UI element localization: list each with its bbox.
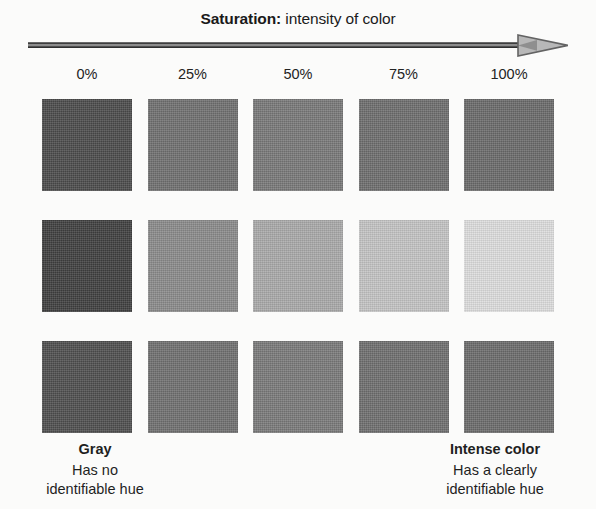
swatch-r2-c1 — [42, 220, 132, 312]
caption-gray-line2: identifiable hue — [0, 480, 190, 500]
swatch-r1-c1 — [42, 99, 132, 191]
tick-label-75: 75% — [359, 64, 449, 86]
swatch-r3-c3 — [253, 341, 343, 433]
title-label: Saturation: — [200, 10, 281, 27]
title-description: intensity of color — [281, 10, 395, 27]
page-title: Saturation: intensity of color — [0, 9, 596, 29]
caption-intense-line1: Has a clearly — [400, 461, 590, 481]
tick-label-100: 100% — [464, 64, 554, 86]
swatch-row-3 — [42, 341, 554, 433]
diagram-canvas: Saturation: intensity of color 0% 25% 50… — [0, 0, 596, 509]
caption-gray-line1: Has no — [0, 461, 190, 481]
swatch-r3-c2 — [148, 341, 238, 433]
caption-intense-title: Intense color — [400, 440, 590, 460]
caption-gray: Gray Has no identifiable hue — [0, 440, 190, 500]
swatch-r2-c4 — [359, 220, 449, 312]
swatch-r1-c5 — [464, 99, 554, 191]
swatch-r3-c5 — [464, 341, 554, 433]
saturation-swatch-grid — [42, 99, 554, 413]
swatch-r2-c5 — [464, 220, 554, 312]
swatch-row-1 — [42, 99, 554, 191]
tick-label-25: 25% — [148, 64, 238, 86]
caption-intense-color: Intense color Has a clearly identifiable… — [400, 440, 590, 500]
tick-label-0: 0% — [42, 64, 132, 86]
swatch-r1-c4 — [359, 99, 449, 191]
swatch-r2-c3 — [253, 220, 343, 312]
right-arrow-icon — [28, 33, 568, 59]
swatch-row-2 — [42, 220, 554, 312]
swatch-r3-c1 — [42, 341, 132, 433]
caption-gray-title: Gray — [0, 440, 190, 460]
swatch-r3-c4 — [359, 341, 449, 433]
swatch-r1-c3 — [253, 99, 343, 191]
tick-label-50: 50% — [253, 64, 343, 86]
axis-tick-labels: 0% 25% 50% 75% 100% — [42, 64, 554, 86]
swatch-r2-c2 — [148, 220, 238, 312]
saturation-axis-arrow — [28, 33, 568, 59]
swatch-r1-c2 — [148, 99, 238, 191]
caption-intense-line2: identifiable hue — [400, 480, 590, 500]
